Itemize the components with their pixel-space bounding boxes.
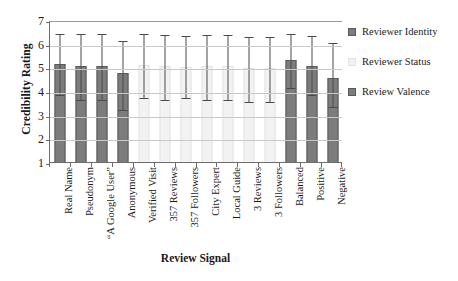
y-tick-mark	[46, 69, 50, 70]
y-tick-mark	[46, 46, 50, 47]
x-category-label: Verified Visit	[147, 167, 158, 223]
error-bar-cap-upper	[140, 34, 149, 35]
y-tick-label: 7	[22, 15, 44, 27]
x-category-label: Negative	[336, 167, 347, 205]
error-bar	[332, 43, 333, 107]
legend-label: Review Valence	[362, 86, 430, 97]
error-bar-cap-lower	[56, 95, 65, 96]
legend-swatch-icon	[348, 28, 356, 36]
x-category-label: “A Google User”	[105, 167, 116, 239]
error-bar-cap-lower	[77, 100, 86, 101]
legend-item[interactable]: Reviewer Identity	[348, 26, 456, 37]
gridline	[50, 93, 342, 94]
error-bar-cap-lower	[119, 110, 128, 111]
error-bar-cap-upper	[119, 41, 128, 42]
legend-swatch-icon	[348, 58, 356, 66]
error-bar-cap-lower	[140, 98, 149, 99]
error-bar-cap-upper	[56, 34, 65, 35]
error-bar-cap-lower	[202, 100, 211, 101]
error-bar	[102, 34, 103, 100]
error-bar-cap-upper	[202, 35, 211, 36]
x-category-label: Anonymous	[126, 167, 137, 218]
error-bar-cap-lower	[307, 95, 316, 96]
error-bar	[60, 34, 61, 96]
error-bar-cap-upper	[161, 35, 170, 36]
error-bar-cap-upper	[77, 34, 86, 35]
error-bar-cap-upper	[307, 36, 316, 37]
y-tick-label: 3	[22, 110, 44, 122]
x-category-label: 357 Followers	[189, 167, 200, 227]
gridline	[50, 117, 342, 118]
gridline	[50, 69, 342, 70]
x-category-label: 357 Reviews	[168, 167, 179, 222]
x-category-label: City Expert	[210, 167, 221, 216]
error-bar-cap-lower	[182, 98, 191, 99]
x-category-label: Real Name	[63, 167, 74, 214]
gridline	[50, 46, 342, 47]
x-category-label: Local Guide	[231, 167, 242, 219]
error-bar-cap-lower	[98, 100, 107, 101]
x-category-label: Positive	[315, 167, 326, 201]
legend-swatch-icon	[348, 88, 356, 96]
error-bar-cap-lower	[244, 102, 253, 103]
error-bar-cap-lower	[223, 100, 232, 101]
legend-item[interactable]: Review Valence	[348, 86, 456, 97]
gridline	[50, 140, 342, 141]
y-tick-label: 1	[22, 157, 44, 169]
x-category-label: 3 Followers	[273, 167, 284, 217]
credibility-rating-bar-chart: Credibility Rating 1234567 Real NamePseu…	[0, 0, 458, 281]
error-bar-cap-upper	[244, 37, 253, 38]
x-category-label: Pseudonym	[84, 167, 95, 216]
error-bar-cap-upper	[223, 35, 232, 36]
x-category-label: 3 Reviews	[252, 167, 263, 211]
error-bar-cap-lower	[161, 100, 170, 101]
y-tick-label: 6	[22, 39, 44, 51]
error-bar-cap-upper	[328, 43, 337, 44]
error-bar-cap-upper	[265, 37, 274, 38]
x-axis-category-labels: Real NamePseudonym“A Google User”Anonymo…	[49, 167, 342, 239]
error-bar	[123, 41, 124, 110]
y-axis-tick-labels: 1234567	[22, 14, 44, 164]
legend-item[interactable]: Reviewer Status	[348, 56, 456, 67]
y-tick-mark	[46, 22, 50, 23]
y-tick-label: 4	[22, 86, 44, 98]
plot-area	[49, 21, 342, 163]
y-tick-mark	[46, 93, 50, 94]
x-category-label: Balanced	[294, 167, 305, 206]
error-bar-cap-upper	[98, 34, 107, 35]
error-bar-cap-upper	[286, 34, 295, 35]
error-bar-cap-lower	[286, 88, 295, 89]
x-axis-title: Review Signal	[49, 252, 342, 264]
y-tick-mark	[46, 117, 50, 118]
error-bar-cap-upper	[182, 36, 191, 37]
error-bar-cap-lower	[265, 102, 274, 103]
error-bar	[81, 34, 82, 100]
error-bar-cap-lower	[328, 107, 337, 108]
error-bar	[290, 34, 291, 88]
chart-legend: Reviewer IdentityReviewer StatusReview V…	[348, 26, 456, 116]
legend-label: Reviewer Status	[362, 56, 431, 67]
legend-label: Reviewer Identity	[362, 26, 438, 37]
y-tick-mark	[46, 140, 50, 141]
error-bar	[144, 34, 145, 98]
y-tick-label: 2	[22, 133, 44, 145]
y-tick-label: 5	[22, 62, 44, 74]
